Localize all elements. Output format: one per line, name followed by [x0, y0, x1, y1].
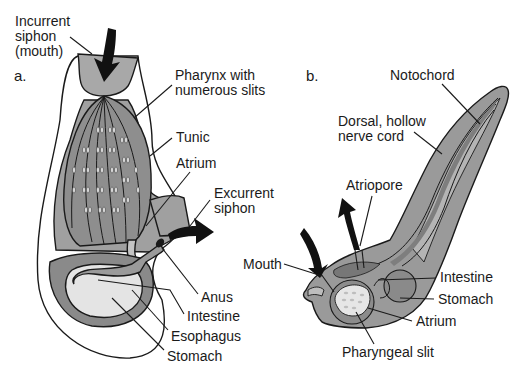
label-intestine-b: Intestine — [440, 269, 493, 285]
label-incurrent-siphon-3: (mouth) — [15, 43, 63, 59]
label-stomach-b: Stomach — [438, 291, 493, 307]
label-esophagus: Esophagus — [171, 328, 241, 344]
label-stomach-a: Stomach — [167, 348, 222, 364]
leader-incurrent — [70, 37, 92, 54]
label-mouth: Mouth — [243, 256, 282, 272]
label-atrium-a: Atrium — [176, 155, 216, 171]
label-pharynx-2: numerous slits — [175, 82, 265, 98]
label-incurrent-siphon-2: siphon — [15, 28, 56, 44]
chordate-anatomy-diagram: a. Incurrent siphon (mouth) Pharynx with… — [0, 0, 523, 374]
label-excurrent-siphon-2: siphon — [214, 200, 255, 216]
label-nerve-cord-2: nerve cord — [338, 128, 404, 144]
stomach-b — [384, 270, 416, 302]
label-pharynx: Pharynx with — [175, 67, 255, 83]
leader-excurrent — [190, 200, 210, 226]
label-anus: Anus — [201, 289, 233, 305]
label-tunic: Tunic — [176, 129, 210, 145]
panel-a-letter: a. — [14, 67, 27, 84]
leader-anus — [162, 248, 198, 294]
mouth-opening — [308, 287, 324, 296]
label-atrium-b: Atrium — [416, 313, 456, 329]
label-incurrent-siphon: Incurrent — [15, 13, 70, 29]
label-notochord: Notochord — [390, 67, 455, 83]
label-atriopore: Atriopore — [346, 177, 403, 193]
atriopore-flow-arrow — [338, 198, 360, 250]
panel-b-letter: b. — [306, 67, 319, 84]
label-excurrent-siphon: Excurrent — [214, 185, 274, 201]
leader-nerve-cord — [414, 132, 442, 154]
leader-tunic — [150, 138, 172, 156]
leader-atriopore — [360, 196, 372, 246]
label-pharyngeal-slit: Pharyngeal slit — [342, 344, 434, 360]
label-intestine-a: Intestine — [187, 308, 240, 324]
label-nerve-cord: Dorsal, hollow — [338, 113, 427, 129]
